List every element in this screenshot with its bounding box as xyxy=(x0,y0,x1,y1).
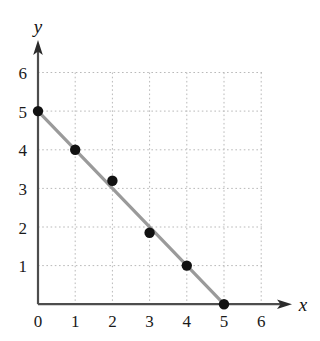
x-axis-label: x xyxy=(298,294,308,315)
y-tick-label-3: 3 xyxy=(19,180,28,199)
trend-line xyxy=(38,111,224,304)
x-tick-label-2: 2 xyxy=(108,312,117,331)
data-point-2 xyxy=(107,176,117,186)
x-tick-label-1: 1 xyxy=(71,312,80,331)
plot-canvas: 6 5 4 3 2 1 0 1 2 3 4 5 6 y x xyxy=(0,0,320,341)
y-tick-label-1: 1 xyxy=(19,257,28,276)
x-tick-label-3: 3 xyxy=(145,312,154,331)
y-tick-label-6: 6 xyxy=(19,64,28,83)
data-point-3 xyxy=(144,228,154,238)
x-tick-label-5: 5 xyxy=(220,312,229,331)
scatter-plot-figure: 6 5 4 3 2 1 0 1 2 3 4 5 6 y x xyxy=(0,0,320,341)
data-point-5 xyxy=(219,299,229,309)
data-point-4 xyxy=(182,260,192,270)
y-tick-label-4: 4 xyxy=(19,141,28,160)
x-tick-label-6: 6 xyxy=(257,312,266,331)
data-point-0 xyxy=(33,106,43,116)
data-point-1 xyxy=(70,145,80,155)
y-axis-label: y xyxy=(32,16,43,37)
x-tick-label-0: 0 xyxy=(34,312,43,331)
y-tick-label-5: 5 xyxy=(19,103,28,122)
y-tick-label-2: 2 xyxy=(19,219,28,238)
x-tick-label-4: 4 xyxy=(183,312,192,331)
